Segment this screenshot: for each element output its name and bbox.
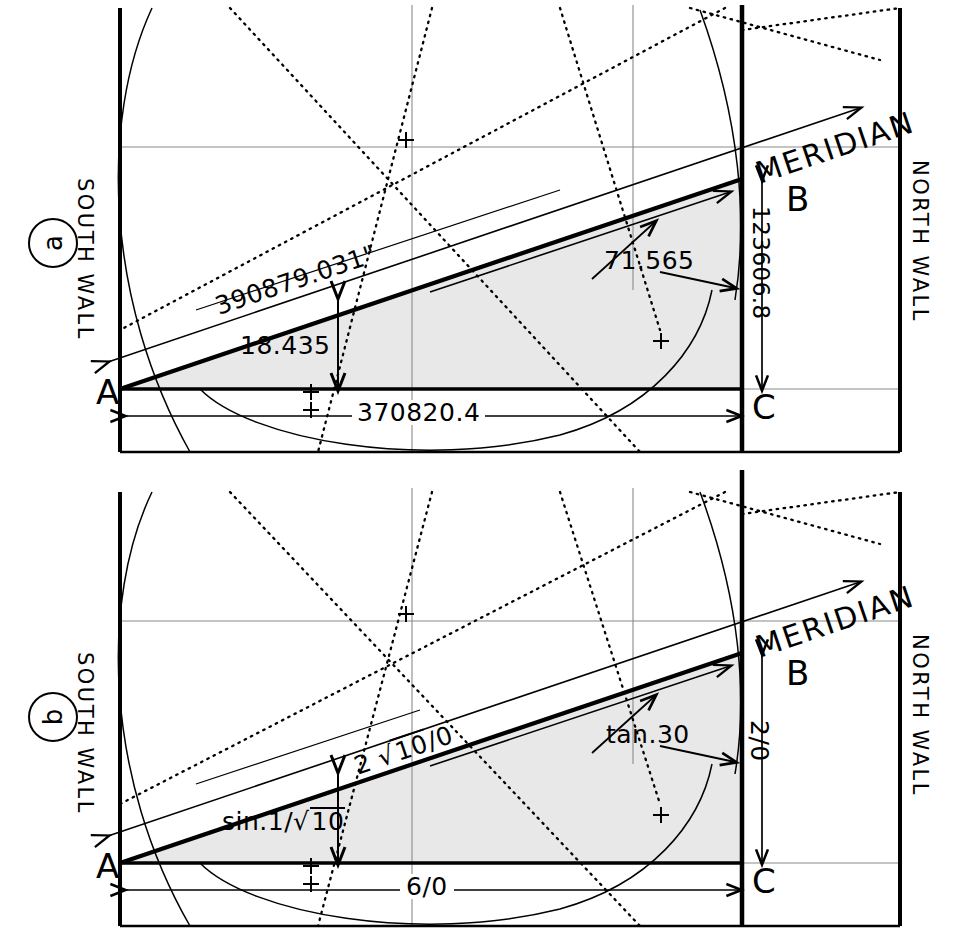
dimension-ac-value-b: 6/0 xyxy=(400,874,454,899)
dotted-ray-5-a xyxy=(742,8,900,30)
angle-b-value-a: 71.565 xyxy=(604,248,694,273)
panel-tag-a: a xyxy=(28,218,78,268)
angle-a-prefix-b: sin.1/ xyxy=(222,807,293,836)
north-wall-label-a: NORTH WALL xyxy=(909,160,930,323)
north-wall-label-b: NORTH WALL xyxy=(909,634,930,797)
angle-a-value-b: sin.1/√10 xyxy=(222,806,345,834)
vertex-c-label-b: C xyxy=(752,864,776,898)
vertex-a-label-a: A xyxy=(96,375,120,409)
south-wall-label-a: SOUTH WALL xyxy=(74,178,95,341)
dotted-ray-5-b xyxy=(742,492,900,514)
panel-tag-b-letter: b xyxy=(38,709,68,726)
dimension-bc-value-a: 123606.8 xyxy=(749,206,772,320)
dotted-ray-6-b xyxy=(690,492,880,544)
dimension-bc-value-b: 2/0 xyxy=(747,720,772,762)
angle-a-radicand-b: 10 xyxy=(310,807,346,834)
south-wall-label-b: SOUTH WALL xyxy=(74,652,95,815)
panel-a: a SOUTH WALL NORTH WALL MERIDIAN A B C 3… xyxy=(0,0,957,470)
vertex-c-label-a: C xyxy=(752,390,776,424)
diagram-sheet: a SOUTH WALL NORTH WALL MERIDIAN A B C 3… xyxy=(0,0,957,941)
panel-b-drawing xyxy=(0,470,957,940)
panel-b: b SOUTH WALL NORTH WALL MERIDIAN A B C 2… xyxy=(0,470,957,940)
vertex-b-label-b: B xyxy=(786,656,810,690)
angle-a-sqrt-b: √10 xyxy=(293,806,345,834)
dimension-ac-value-a: 370820.4 xyxy=(352,400,485,425)
vertex-a-label-b: A xyxy=(96,849,120,883)
panel-tag-b: b xyxy=(28,692,78,742)
panel-tag-a-letter: a xyxy=(38,235,68,251)
angle-b-value-b: tan.30 xyxy=(606,722,690,747)
vertex-b-label-a: B xyxy=(786,182,810,216)
angle-a-value-a: 18.435 xyxy=(240,333,330,358)
dotted-ray-6-a xyxy=(690,8,880,60)
